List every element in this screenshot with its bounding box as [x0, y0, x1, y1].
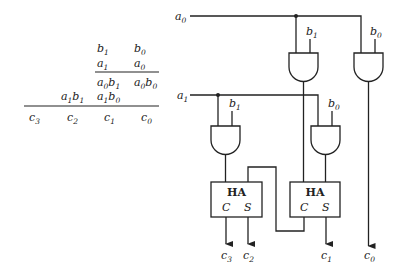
and-gate-a1b1	[211, 126, 240, 154]
and-a1b0-b0-label: b0	[328, 97, 340, 112]
table-a0b0: a0b0	[134, 76, 157, 91]
multiplier-diagram: b1 b0 a1 a0 a0b1 a0b0 a1b1 a1b0 c3 c2 c1…	[0, 0, 406, 279]
table-c0: c0	[141, 111, 152, 126]
circuit: a0 b1 b0 a1 b1 b0 HA C S	[175, 10, 383, 264]
and-a0b0-b0-label: b0	[370, 25, 382, 40]
and-gate-a1b0	[311, 126, 340, 155]
and-a1b1-b1-label: b1	[229, 97, 241, 112]
table-c3: c3	[29, 111, 40, 126]
multiplication-table: b1 b0 a1 a0 a0b1 a0b0 a1b1 a1b0 c3 c2 c1…	[24, 42, 159, 126]
ha-right-sum: S	[322, 201, 330, 214]
table-a0: a0	[134, 57, 146, 72]
ha-right-label: HA	[306, 186, 325, 199]
and-gate-a0b0	[354, 53, 383, 82]
output-c2: c2	[243, 249, 254, 264]
ha-right-carry: C	[300, 201, 309, 214]
ha-left-label: HA	[227, 186, 246, 199]
output-c0: c0	[364, 249, 375, 264]
input-a0-label: a0	[175, 10, 187, 25]
table-c2: c2	[67, 111, 78, 126]
output-c3: c3	[221, 249, 232, 264]
table-a0b1: a0b1	[97, 76, 120, 91]
output-c1: c1	[321, 249, 332, 264]
table-b1: b1	[97, 42, 109, 57]
ha-left-sum: S	[244, 201, 252, 214]
and-a0b1-b1-label: b1	[306, 25, 318, 40]
table-b0: b0	[134, 42, 146, 57]
table-c1: c1	[104, 111, 115, 126]
and-gate-a0b1	[289, 53, 318, 82]
table-a1b1: a1b1	[61, 90, 84, 105]
ha-left-carry: C	[222, 201, 231, 214]
input-a1-label: a1	[177, 89, 188, 104]
table-a1: a1	[97, 57, 108, 72]
wire-a0	[190, 16, 361, 53]
wire-a1	[190, 95, 318, 126]
table-a1b0: a1b0	[97, 90, 120, 105]
